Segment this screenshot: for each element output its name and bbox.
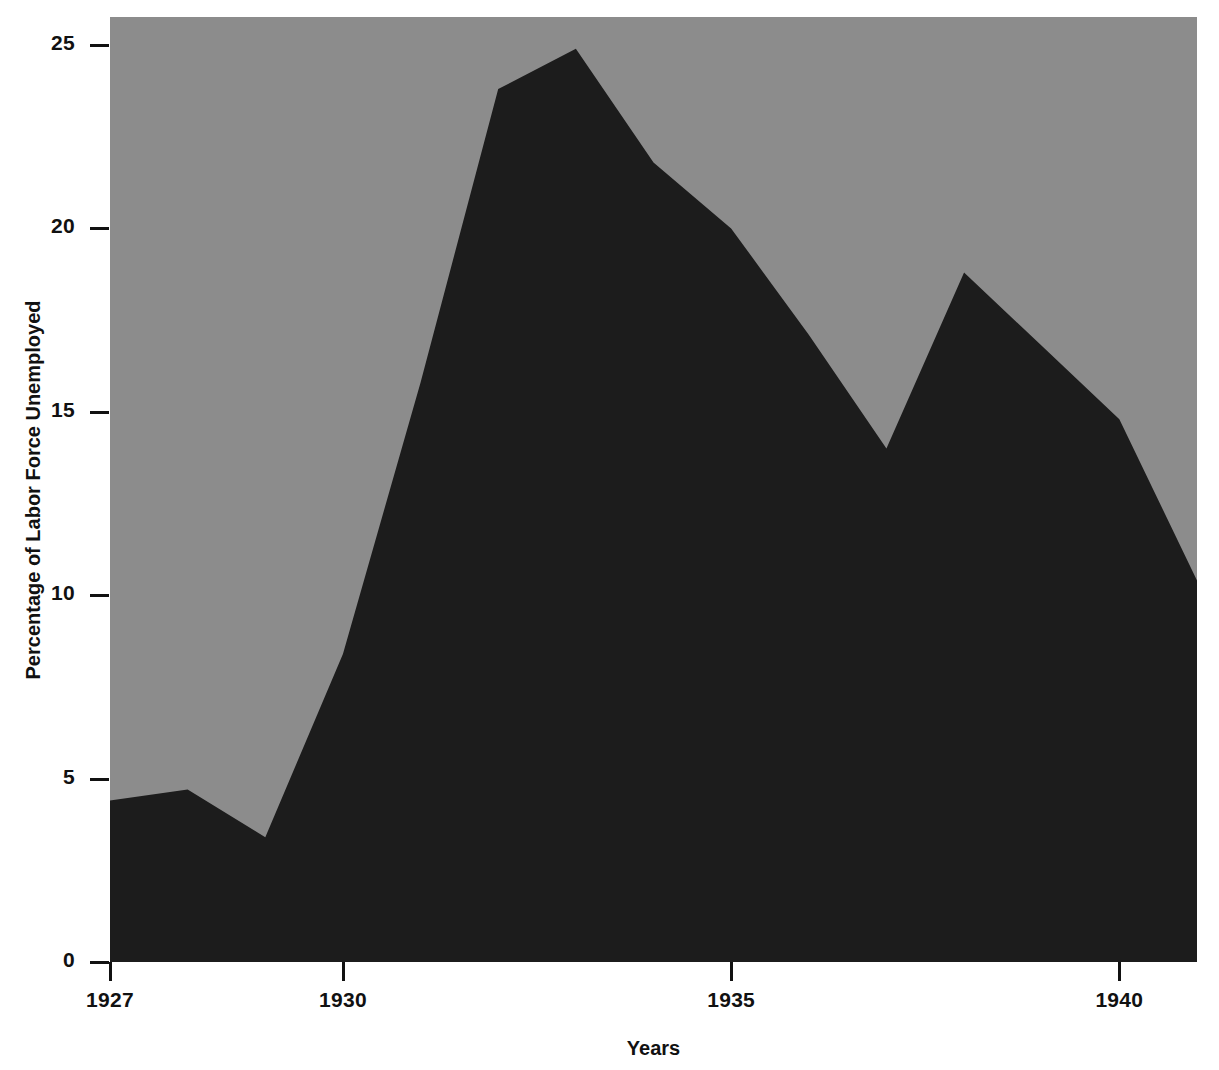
x-tick-label: 1927: [50, 988, 170, 1012]
x-tick-label: 1935: [671, 988, 791, 1012]
y-tick-mark: [90, 961, 109, 964]
area-series: [110, 17, 1197, 962]
y-tick-label: 15: [0, 398, 75, 422]
y-tick-mark: [90, 594, 109, 597]
y-tick-mark: [90, 778, 109, 781]
y-tick-label: 10: [0, 581, 75, 605]
x-axis-title: Years: [110, 1037, 1197, 1060]
x-tick-mark: [1118, 962, 1121, 981]
x-tick-mark: [730, 962, 733, 981]
unemployment-area-chart: Percentage of Labor Force Unemployed Yea…: [0, 0, 1219, 1070]
y-tick-label: 0: [0, 948, 75, 972]
y-tick-mark: [90, 411, 109, 414]
y-axis-title: Percentage of Labor Force Unemployed: [22, 300, 45, 679]
x-tick-mark: [342, 962, 345, 981]
plot-area: [110, 17, 1197, 962]
y-tick-mark: [90, 44, 109, 47]
y-tick-label: 5: [0, 765, 75, 789]
x-tick-label: 1930: [283, 988, 403, 1012]
chart-page: Percentage of Labor Force Unemployed Yea…: [0, 0, 1219, 1070]
x-tick-label: 1940: [1059, 988, 1179, 1012]
y-tick-mark: [90, 227, 109, 230]
y-tick-label: 20: [0, 214, 75, 238]
y-tick-label: 25: [0, 31, 75, 55]
x-tick-mark: [109, 962, 112, 981]
area-series-fill: [110, 49, 1197, 962]
